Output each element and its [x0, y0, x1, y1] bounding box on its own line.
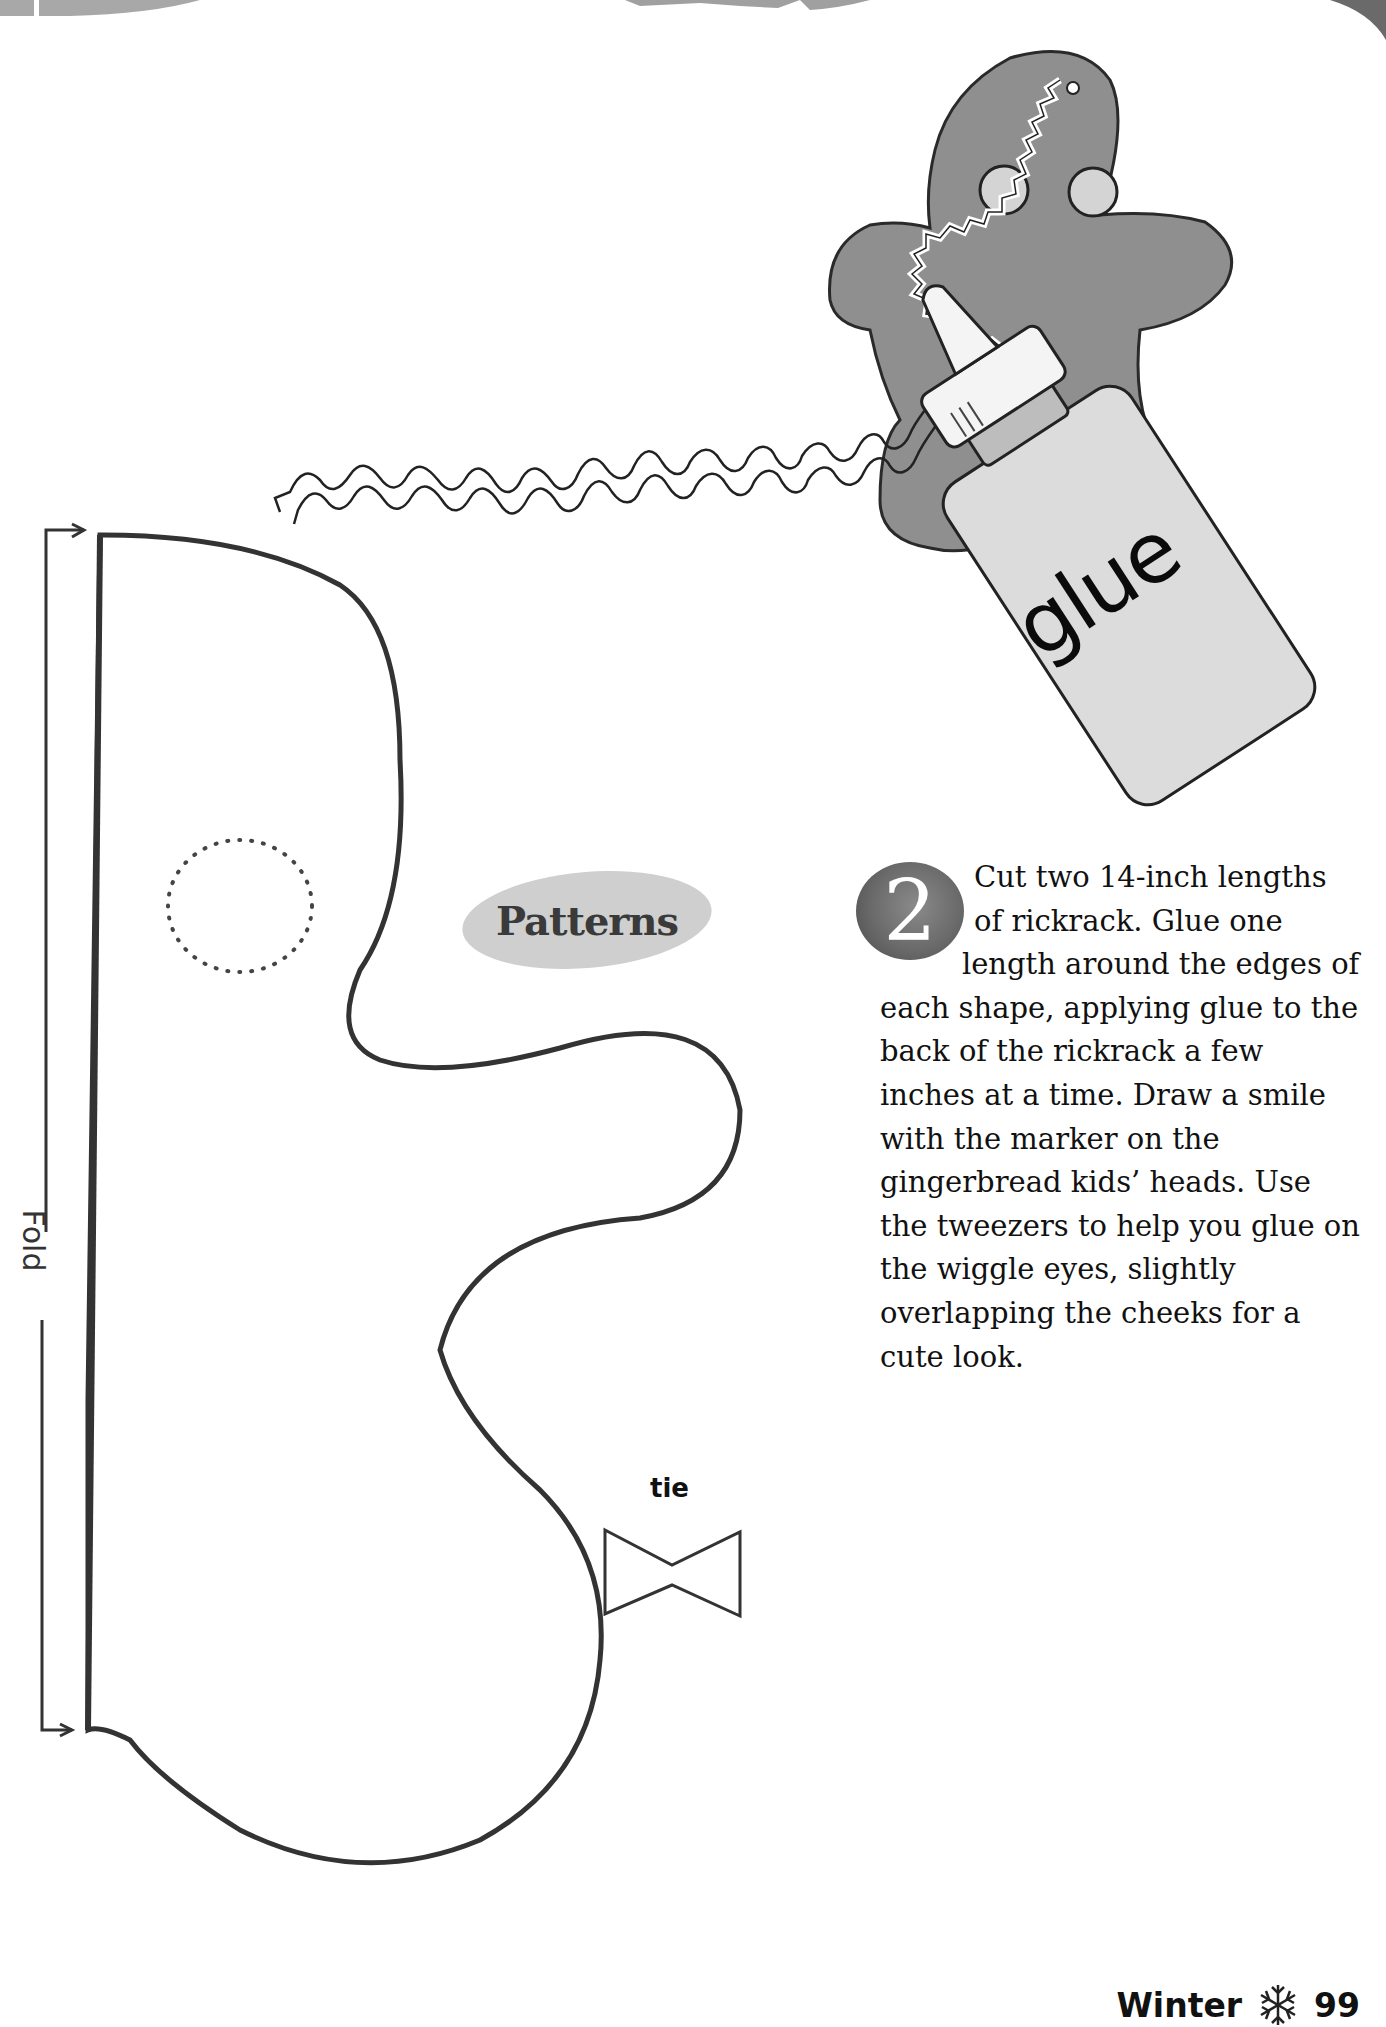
- header-decoration: [0, 0, 1386, 40]
- cheek-guide: [168, 840, 312, 972]
- patterns-heading: Patterns: [496, 897, 678, 944]
- bow-tie-pattern: [605, 1530, 740, 1616]
- page-number: 99: [1314, 1986, 1360, 2025]
- gingerbread-pattern-outline: [88, 535, 740, 1863]
- fold-label: Fold: [17, 1209, 52, 1271]
- page-footer: Winter 99: [1116, 1983, 1360, 2027]
- step-instruction: 2 Cut two 14-inch lengths of rickrack. G…: [880, 856, 1360, 1379]
- fold-indicator: Fold: [4, 1200, 64, 1280]
- step-number-badge: 2: [856, 862, 964, 960]
- snowflake-icon: [1258, 1983, 1298, 2027]
- tie-label: tie: [650, 1473, 689, 1503]
- section-name: Winter: [1116, 1986, 1242, 2025]
- fold-bracket: [42, 524, 84, 1736]
- rickrack-strand: [275, 400, 940, 524]
